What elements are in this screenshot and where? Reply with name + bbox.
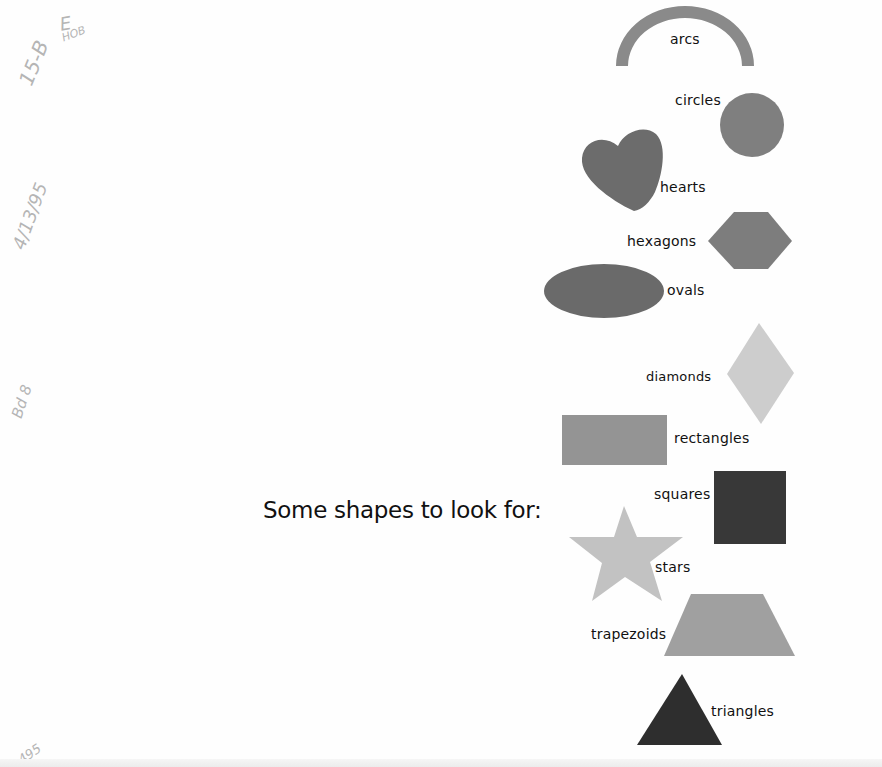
triangle-shape <box>637 674 722 745</box>
oval-shape <box>544 264 664 318</box>
circle-shape <box>720 93 784 157</box>
label-diamonds: diamonds <box>646 369 711 384</box>
shapes-illustration <box>0 0 882 767</box>
heart-shape <box>582 130 663 211</box>
page-bottom-edge <box>0 759 882 767</box>
label-trapezoids: trapezoids <box>591 626 666 642</box>
label-circles: circles <box>675 92 721 108</box>
square-shape <box>714 471 786 544</box>
book-page: arcs circles hearts hexagons ovals diamo… <box>0 0 882 767</box>
label-squares: squares <box>654 486 710 502</box>
label-hearts: hearts <box>660 179 706 195</box>
label-rectangles: rectangles <box>674 430 749 446</box>
rectangle-shape <box>562 415 667 465</box>
diamond-shape <box>727 323 794 424</box>
star-shape <box>569 506 683 601</box>
label-triangles: triangles <box>711 703 774 719</box>
label-stars: stars <box>655 559 690 575</box>
label-ovals: ovals <box>667 282 705 298</box>
trapezoid-shape <box>664 594 795 656</box>
label-arcs: arcs <box>670 31 700 47</box>
page-heading: Some shapes to look for: <box>263 497 542 523</box>
hexagon-shape <box>708 212 792 269</box>
label-hexagons: hexagons <box>627 233 696 249</box>
